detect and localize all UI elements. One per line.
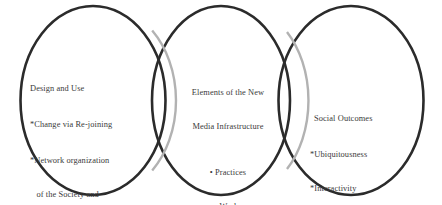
middle-group-bullet-list: • Practices • Works • Regulations <box>176 156 280 205</box>
left-group-item-2: *Network organization <box>30 155 112 166</box>
right-group-item-1: *Ubiquitousness <box>310 149 373 160</box>
right-group-text: Social Outcomes *Ubiquitousness *Interac… <box>310 90 373 205</box>
right-group-item-2: *Interactivity <box>310 183 373 194</box>
middle-group-bullet-1: • Practices <box>176 167 280 178</box>
middle-group-heading-line-2: Media Infrastructure <box>176 121 280 132</box>
right-group-heading: Social Outcomes <box>310 113 373 124</box>
left-group-heading: Design and Use <box>30 83 112 94</box>
left-group-item-1: *Change via Re-joining <box>30 119 112 130</box>
venn-diagram: Design and Use *Change via Re-joining *N… <box>0 0 442 205</box>
left-group-text: Design and Use *Change via Re-joining *N… <box>30 60 112 205</box>
middle-group-text: Elements of the New Media Infrastructure… <box>176 64 280 205</box>
middle-group-heading-line-1: Elements of the New <box>176 87 280 98</box>
middle-group-bullet-2: • Works <box>176 201 280 205</box>
left-group-item-2-cont-1: of the Society and <box>30 189 112 200</box>
